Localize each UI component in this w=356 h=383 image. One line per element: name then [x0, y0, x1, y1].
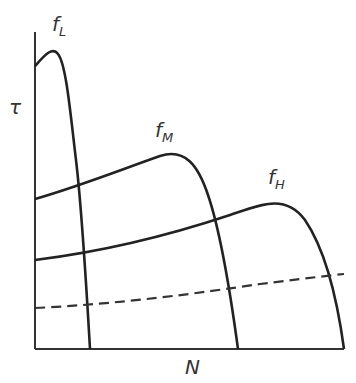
curve-f-l: [35, 51, 90, 349]
label-f-l-base: f: [52, 12, 59, 36]
label-f-l: fL: [52, 14, 66, 38]
curve-baseline-dashed: [35, 274, 344, 308]
label-f-m-sub: M: [162, 130, 173, 145]
label-f-m-base: f: [155, 118, 162, 142]
label-f-h-sub: H: [275, 177, 285, 192]
torque-speed-diagram: [0, 0, 356, 383]
label-f-l-sub: L: [59, 24, 66, 39]
label-f-h: fH: [268, 167, 285, 191]
y-axis-label: τ: [9, 97, 21, 117]
label-f-h-base: f: [268, 165, 275, 189]
curve-f-m: [35, 154, 238, 349]
label-f-m: fM: [155, 120, 173, 144]
x-axis-label: N: [185, 357, 200, 377]
